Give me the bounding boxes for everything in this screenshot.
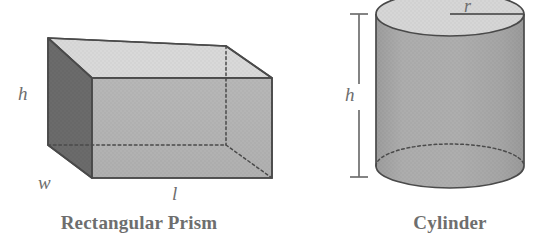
rectangular-prism-shape (48, 38, 272, 178)
geometry-figure: h w l h r Rectangular Prism Cylinder (0, 0, 556, 249)
cylinder-radius-label: r (464, 0, 471, 17)
cylinder-shape (350, 0, 530, 200)
prism-height-label: h (18, 83, 28, 105)
prism-front-face-texture (92, 78, 272, 178)
prism-caption: Rectangular Prism (0, 212, 278, 234)
prism-length-label: l (172, 183, 177, 205)
cylinder-caption: Cylinder (360, 212, 540, 234)
prism-width-label: w (38, 172, 51, 194)
cylinder-height-label: h (345, 84, 355, 106)
